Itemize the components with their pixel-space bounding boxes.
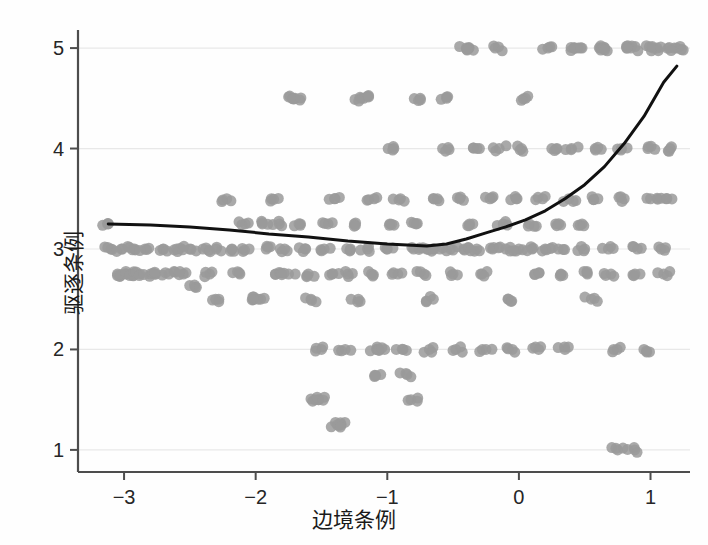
scatter-point: [455, 341, 466, 352]
scatter-point: [555, 269, 566, 280]
scatter-point: [666, 141, 677, 152]
scatter-point: [575, 42, 586, 53]
scatter-point: [276, 220, 287, 231]
scatter-point: [533, 268, 544, 279]
scatter-point: [558, 244, 569, 255]
scatter-point: [468, 142, 479, 153]
scatter-point: [553, 342, 564, 353]
scatter-point: [478, 271, 489, 282]
scatter-point: [426, 347, 437, 358]
scatter-point: [588, 194, 599, 205]
y-tick-label: 1: [53, 438, 64, 461]
x-tick-label: 0: [513, 486, 524, 509]
scatter-point: [497, 45, 508, 56]
scatter-point: [237, 243, 248, 254]
scatter-point: [355, 296, 366, 307]
scatter-point: [367, 271, 378, 282]
scatter-point: [216, 245, 227, 256]
scatter-point: [387, 145, 398, 156]
scatter-point: [216, 196, 227, 207]
scatter-point: [474, 346, 485, 357]
scatter-point: [370, 370, 381, 381]
scatter-point: [503, 343, 514, 354]
scatter-point: [535, 341, 546, 352]
scatter-point: [257, 217, 268, 228]
scatter-point: [149, 267, 160, 278]
scatter-point: [174, 266, 185, 277]
scatter-point: [259, 293, 270, 304]
scatter-point: [349, 221, 360, 232]
scatter-point: [363, 91, 374, 102]
scatter-point: [464, 218, 475, 229]
scatter-point: [442, 91, 453, 102]
scatter-point: [530, 194, 541, 205]
scatter-point: [490, 145, 501, 156]
scatter-point: [409, 218, 420, 229]
scatter-point: [506, 296, 517, 307]
scatter-point: [512, 141, 523, 152]
scatter-point: [317, 217, 328, 228]
scatter-point: [660, 242, 671, 253]
scatter-point: [632, 447, 643, 458]
scatter-point: [317, 341, 328, 352]
scatter-point: [232, 266, 243, 277]
scatter-point: [622, 444, 633, 455]
scatter-point: [386, 219, 397, 230]
scatter-point: [678, 45, 689, 56]
scatter-point: [590, 145, 601, 156]
scatter-point: [512, 193, 523, 204]
scatter-point: [662, 270, 673, 281]
scatter-point: [440, 146, 451, 157]
scatter-point: [461, 44, 472, 55]
scatter-point: [641, 346, 652, 357]
scatter-point: [579, 292, 590, 303]
scatter-point: [178, 241, 189, 252]
scatter-point: [276, 246, 287, 257]
scatter-points-group: [97, 40, 689, 458]
scatter-point: [568, 196, 579, 207]
scatter-point: [488, 191, 499, 202]
scatter-point: [111, 246, 122, 257]
scatter-point: [134, 245, 145, 256]
scatter-point: [295, 92, 306, 103]
scatter-point: [387, 269, 398, 280]
y-axis-title: 驱逐条例: [57, 231, 87, 315]
y-tick-label: 4: [53, 137, 64, 160]
scatter-plot-figure: 12345 −3−2−101 边境条例 驱逐条例: [0, 0, 708, 545]
scatter-point: [523, 221, 534, 232]
scatter-point: [508, 245, 519, 256]
scatter-point: [516, 95, 527, 106]
scatter-point: [578, 220, 589, 231]
scatter-point: [666, 45, 677, 56]
scatter-point: [363, 194, 374, 205]
scatter-point: [666, 193, 677, 204]
scatter-point: [607, 346, 618, 357]
scatter-point: [300, 243, 311, 254]
scatter-point: [364, 246, 375, 257]
scatter-point: [628, 241, 639, 252]
scatter-point: [330, 193, 341, 204]
x-tick-label: −3: [113, 486, 136, 509]
scatter-point: [560, 144, 571, 155]
scatter-point: [652, 267, 663, 278]
scatter-point: [537, 245, 548, 256]
scatter-point: [403, 395, 414, 406]
scatter-point: [343, 271, 354, 282]
scatter-point: [327, 268, 338, 279]
scatter-point: [578, 245, 589, 256]
scatter-point: [301, 271, 312, 282]
scatter-point: [589, 293, 600, 304]
scatter-point: [290, 269, 301, 280]
scatter-point: [388, 194, 399, 205]
scatter-point: [421, 296, 432, 307]
scatter-point: [608, 243, 619, 254]
scatter-point: [608, 271, 619, 282]
y-tick-label: 2: [53, 338, 64, 361]
scatter-point: [428, 193, 439, 204]
scatter-point: [191, 245, 202, 256]
scatter-point: [279, 268, 290, 279]
scatter-point: [455, 192, 466, 203]
scatter-point: [597, 243, 608, 254]
x-tick-label: −2: [244, 486, 267, 509]
scatter-point: [501, 140, 512, 151]
